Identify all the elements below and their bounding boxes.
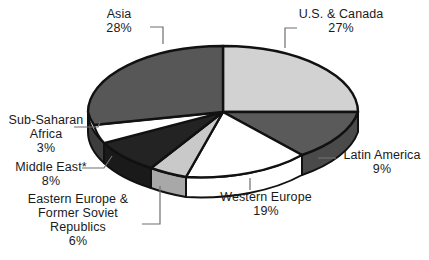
slice-label-asia-name: Asia (83, 7, 155, 21)
slice-label-middle-east-name: Middle East* (2, 160, 100, 174)
slice-label-eastern-europe-line3: Republics (14, 220, 142, 234)
slice-label-eastern-europe: Eastern Europe & Former Soviet Republics… (14, 192, 142, 248)
slice-label-western-europe-name: Western Europe (204, 190, 328, 204)
leader-line-eastern-europe (142, 186, 160, 224)
slice-label-sub-saharan-africa-percent: 3% (0, 141, 92, 155)
slice-label-eastern-europe-line2: Former Soviet (14, 206, 142, 220)
slice-label-latin-america-percent: 9% (336, 162, 428, 176)
slice-label-middle-east-percent: 8% (2, 174, 100, 188)
slice-label-latin-america-name: Latin America (336, 148, 428, 162)
slice-label-sub-saharan-africa: Sub-Saharan Africa 3% (0, 113, 92, 155)
pie-chart: Asia 28% U.S. & Canada 27% Latin America… (0, 0, 429, 260)
slice-label-eastern-europe-percent: 6% (14, 234, 142, 248)
slice-asia (88, 46, 223, 125)
slice-label-western-europe-percent: 19% (204, 204, 328, 218)
slice-us-canada (223, 46, 358, 112)
slice-label-asia-percent: 28% (83, 21, 155, 35)
slice-label-us-canada: U.S. & Canada 27% (280, 7, 402, 35)
slice-label-western-europe: Western Europe 19% (204, 190, 328, 218)
slice-label-sub-saharan-africa-line2: Africa (0, 127, 92, 141)
slice-label-us-canada-name: U.S. & Canada (280, 7, 402, 21)
slice-label-latin-america: Latin America 9% (336, 148, 428, 176)
slice-label-us-canada-percent: 27% (280, 21, 402, 35)
slice-label-asia: Asia 28% (83, 7, 155, 35)
slice-label-eastern-europe-line1: Eastern Europe & (14, 192, 142, 206)
slice-label-sub-saharan-africa-line1: Sub-Saharan (0, 113, 92, 127)
slice-label-middle-east: Middle East* 8% (2, 160, 100, 188)
